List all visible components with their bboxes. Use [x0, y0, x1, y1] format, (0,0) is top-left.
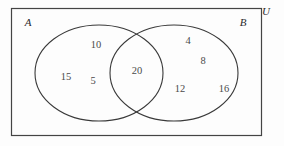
set-a-label: A: [24, 16, 32, 28]
element-intersection: 20: [132, 65, 143, 76]
set-b-ellipse: [110, 25, 238, 121]
set-b-label: B: [240, 16, 247, 28]
element-b-only-lower-left: 12: [175, 83, 186, 94]
element-b-only-top: 4: [185, 35, 191, 46]
venn-diagram-figure: U A B 10 15 5 20 4 8 12 16: [0, 0, 284, 146]
element-a-only-left: 15: [61, 71, 72, 82]
element-b-only-right: 16: [219, 83, 230, 94]
venn-diagram-canvas: U A B 10 15 5 20 4 8 12 16: [0, 0, 284, 146]
element-b-only-mid: 8: [200, 55, 205, 66]
element-a-only-mid: 5: [90, 75, 95, 86]
element-a-only-top: 10: [91, 39, 102, 50]
universe-label: U: [262, 5, 271, 17]
